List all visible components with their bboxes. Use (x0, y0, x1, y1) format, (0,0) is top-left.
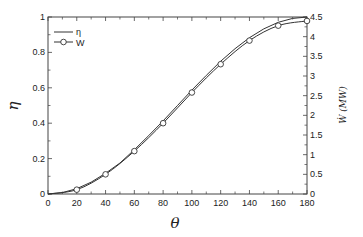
x-tick-label: 60 (129, 198, 139, 208)
chart: 020406080100120140160180 00.20.40.60.81 … (0, 0, 363, 237)
y-axis-title-left: η (4, 102, 22, 111)
y-axis-ticks-right: 00.511.522.533.544.5 (303, 12, 323, 199)
y-right-tick-label: 4.5 (310, 12, 323, 22)
x-axis-ticks: 020406080100120140160180 (45, 17, 314, 208)
data-point-circle-icon (74, 187, 80, 193)
y-right-tick-label: 4 (310, 32, 315, 42)
data-point-circle-icon (103, 172, 109, 178)
y-right-tick-label: 3 (310, 71, 315, 81)
x-tick-label: 0 (45, 198, 50, 208)
legend-label-w: W (76, 38, 85, 48)
data-point-circle-icon (189, 90, 195, 96)
y-axis-title-right: Ẇ (MW) (337, 86, 348, 124)
legend-label-eta: η (76, 27, 81, 37)
x-tick-label: 20 (72, 198, 82, 208)
x-tick-label: 80 (158, 198, 168, 208)
series-line-eta (48, 17, 307, 194)
x-tick-label: 180 (299, 198, 314, 208)
data-point-circle-icon (275, 23, 281, 29)
x-tick-label: 120 (213, 198, 228, 208)
y-right-tick-label: 1.5 (310, 130, 323, 140)
x-tick-label: 100 (184, 198, 199, 208)
y-right-tick-label: 0.5 (310, 169, 323, 179)
y-right-tick-label: 3.5 (310, 51, 323, 61)
data-point-circle-icon (132, 148, 138, 154)
data-point-circle-icon (160, 120, 166, 126)
y-axis-ticks-left: 00.20.40.60.81 (32, 12, 52, 199)
data-point-circle-icon (247, 38, 253, 44)
y-right-tick-label: 2 (310, 110, 315, 120)
series-line-w (48, 21, 307, 194)
y-tick-label: 0 (40, 189, 45, 199)
y-tick-label: 1 (40, 12, 45, 22)
plot-series (48, 17, 310, 194)
legend: η W (54, 27, 85, 48)
x-tick-label: 40 (101, 198, 111, 208)
y-tick-label: 0.6 (32, 83, 45, 93)
y-right-tick-label: 0 (310, 189, 315, 199)
y-tick-label: 0.4 (32, 118, 45, 128)
legend-marker-circle-icon (61, 39, 67, 45)
y-tick-label: 0.8 (32, 47, 45, 57)
y-tick-label: 0.2 (32, 154, 45, 164)
x-tick-label: 140 (242, 198, 257, 208)
x-axis-title: θ (170, 214, 179, 232)
data-point-circle-icon (218, 61, 224, 67)
y-right-tick-label: 2.5 (310, 91, 323, 101)
y-right-tick-label: 1 (310, 150, 315, 160)
x-tick-label: 160 (271, 198, 286, 208)
data-point-circle-icon (304, 18, 310, 24)
